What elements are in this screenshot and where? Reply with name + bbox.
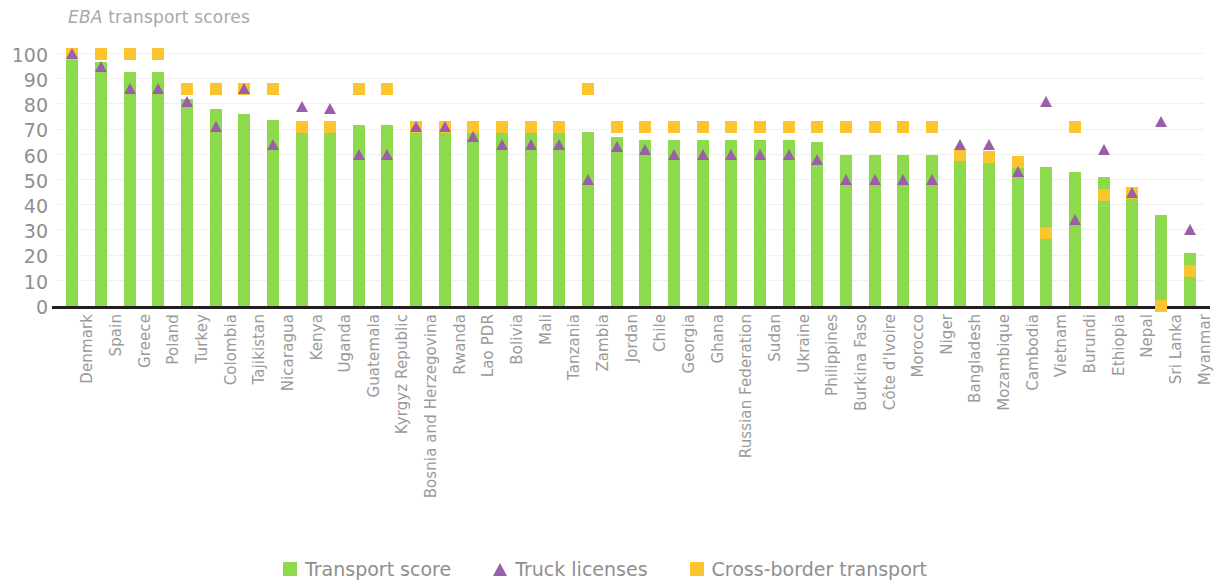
bar-group[interactable]	[353, 54, 365, 306]
bar-group[interactable]	[811, 54, 823, 306]
bar-transport-score[interactable]	[697, 140, 709, 306]
marker-cross-border-transport[interactable]	[697, 121, 709, 133]
bar-group[interactable]	[152, 54, 164, 306]
bar-group[interactable]	[697, 54, 709, 306]
marker-truck-licenses[interactable]	[1098, 144, 1110, 155]
bar-group[interactable]	[381, 54, 393, 306]
bar-group[interactable]	[897, 54, 909, 306]
bar-group[interactable]	[181, 54, 193, 306]
marker-cross-border-transport[interactable]	[983, 151, 995, 163]
marker-truck-licenses[interactable]	[152, 83, 164, 94]
marker-cross-border-transport[interactable]	[496, 121, 508, 133]
legend-item-cross_border_transport[interactable]: Cross-border transport	[690, 558, 928, 580]
legend-item-truck_licenses[interactable]: Truck licenses	[493, 558, 647, 580]
marker-truck-licenses[interactable]	[783, 149, 795, 160]
marker-cross-border-transport[interactable]	[840, 121, 852, 133]
bar-group[interactable]	[1126, 54, 1138, 306]
marker-cross-border-transport[interactable]	[553, 121, 565, 133]
marker-truck-licenses[interactable]	[754, 149, 766, 160]
bar-group[interactable]	[668, 54, 680, 306]
marker-cross-border-transport[interactable]	[353, 83, 365, 95]
bar-transport-score[interactable]	[983, 157, 995, 306]
bar-group[interactable]	[296, 54, 308, 306]
bar-transport-score[interactable]	[324, 125, 336, 306]
bar-group[interactable]	[926, 54, 938, 306]
bar-transport-score[interactable]	[66, 54, 78, 306]
bar-transport-score[interactable]	[1069, 172, 1081, 306]
marker-truck-licenses[interactable]	[525, 139, 537, 150]
bar-group[interactable]	[754, 54, 766, 306]
bar-transport-score[interactable]	[754, 140, 766, 306]
marker-cross-border-transport[interactable]	[1155, 300, 1167, 312]
marker-cross-border-transport[interactable]	[1040, 227, 1052, 239]
marker-cross-border-transport[interactable]	[954, 149, 966, 161]
marker-truck-licenses[interactable]	[467, 131, 479, 142]
bar-group[interactable]	[869, 54, 881, 306]
bar-group[interactable]	[124, 54, 136, 306]
bar-group[interactable]	[553, 54, 565, 306]
bar-group[interactable]	[983, 54, 995, 306]
bar-group[interactable]	[439, 54, 451, 306]
marker-cross-border-transport[interactable]	[181, 83, 193, 95]
marker-truck-licenses[interactable]	[811, 154, 823, 165]
marker-truck-licenses[interactable]	[1040, 96, 1052, 107]
bar-group[interactable]	[783, 54, 795, 306]
marker-truck-licenses[interactable]	[1126, 187, 1138, 198]
bar-transport-score[interactable]	[811, 142, 823, 306]
bar-transport-score[interactable]	[1126, 193, 1138, 306]
bar-group[interactable]	[639, 54, 651, 306]
bar-transport-score[interactable]	[181, 99, 193, 306]
marker-cross-border-transport[interactable]	[926, 121, 938, 133]
marker-truck-licenses[interactable]	[954, 139, 966, 150]
marker-cross-border-transport[interactable]	[124, 48, 136, 60]
marker-cross-border-transport[interactable]	[783, 121, 795, 133]
marker-truck-licenses[interactable]	[66, 48, 78, 59]
bar-transport-score[interactable]	[725, 140, 737, 306]
bar-group[interactable]	[410, 54, 422, 306]
marker-truck-licenses[interactable]	[553, 139, 565, 150]
bar-transport-score[interactable]	[238, 114, 250, 306]
bar-transport-score[interactable]	[668, 140, 680, 306]
marker-truck-licenses[interactable]	[181, 96, 193, 107]
bar-transport-score[interactable]	[439, 127, 451, 306]
bar-transport-score[interactable]	[467, 130, 479, 306]
marker-truck-licenses[interactable]	[267, 139, 279, 150]
bar-transport-score[interactable]	[124, 72, 136, 306]
bar-group[interactable]	[467, 54, 479, 306]
bar-transport-score[interactable]	[496, 130, 508, 306]
bar-transport-score[interactable]	[582, 132, 594, 306]
marker-cross-border-transport[interactable]	[324, 121, 336, 133]
bar-transport-score[interactable]	[210, 109, 222, 306]
marker-truck-licenses[interactable]	[897, 174, 909, 185]
marker-truck-licenses[interactable]	[324, 103, 336, 114]
marker-truck-licenses[interactable]	[95, 61, 107, 72]
bar-transport-score[interactable]	[954, 155, 966, 306]
bar-transport-score[interactable]	[152, 72, 164, 306]
marker-truck-licenses[interactable]	[869, 174, 881, 185]
bar-transport-score[interactable]	[296, 125, 308, 306]
marker-cross-border-transport[interactable]	[668, 121, 680, 133]
marker-truck-licenses[interactable]	[1184, 224, 1196, 235]
bar-transport-score[interactable]	[553, 130, 565, 306]
bar-group[interactable]	[1098, 54, 1110, 306]
marker-cross-border-transport[interactable]	[639, 121, 651, 133]
marker-truck-licenses[interactable]	[983, 139, 995, 150]
bar-transport-score[interactable]	[639, 140, 651, 306]
marker-truck-licenses[interactable]	[639, 144, 651, 155]
bar-group[interactable]	[210, 54, 222, 306]
marker-cross-border-transport[interactable]	[152, 48, 164, 60]
bar-transport-score[interactable]	[783, 140, 795, 306]
marker-truck-licenses[interactable]	[238, 83, 250, 94]
marker-truck-licenses[interactable]	[296, 101, 308, 112]
marker-cross-border-transport[interactable]	[210, 83, 222, 95]
bar-group[interactable]	[324, 54, 336, 306]
marker-truck-licenses[interactable]	[439, 121, 451, 132]
bar-transport-score[interactable]	[611, 137, 623, 306]
bar-group[interactable]	[840, 54, 852, 306]
bar-group[interactable]	[582, 54, 594, 306]
bar-group[interactable]	[66, 54, 78, 306]
marker-truck-licenses[interactable]	[582, 174, 594, 185]
bar-group[interactable]	[611, 54, 623, 306]
marker-cross-border-transport[interactable]	[267, 83, 279, 95]
marker-cross-border-transport[interactable]	[754, 121, 766, 133]
